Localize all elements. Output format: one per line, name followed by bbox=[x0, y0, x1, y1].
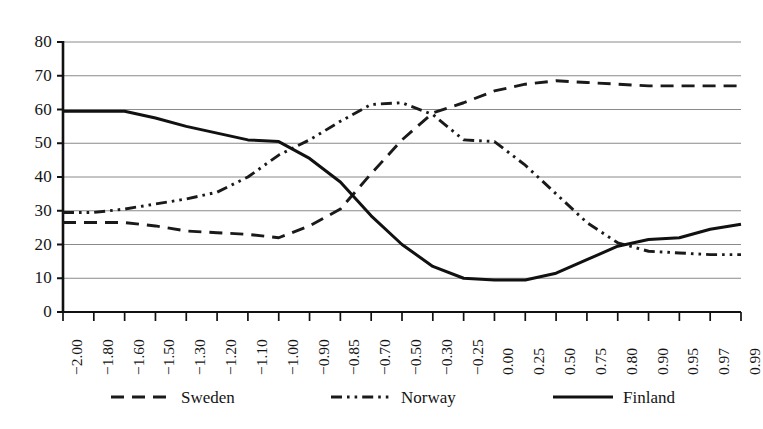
series-line-sweden bbox=[63, 81, 741, 238]
data-series-group bbox=[63, 81, 741, 280]
series-line-finland bbox=[63, 111, 741, 280]
x-tick-marks bbox=[63, 312, 741, 321]
gridlines-group bbox=[63, 42, 741, 312]
series-line-norway bbox=[63, 103, 741, 255]
